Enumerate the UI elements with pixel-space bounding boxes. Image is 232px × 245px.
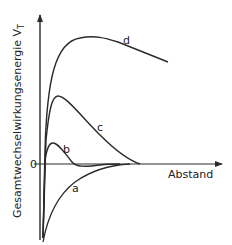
diagram-canvas: 0 a b c d Abstand Gesamtwechselwirkungse… <box>0 0 232 245</box>
x-axis-label: Abstand <box>168 168 213 181</box>
curve-label-b: b <box>63 143 70 156</box>
curve-label-a: a <box>72 182 79 195</box>
curve-label-c: c <box>97 121 103 134</box>
curve-label-d: d <box>123 34 130 47</box>
curve-c <box>43 96 140 238</box>
curve-d <box>43 37 168 238</box>
zero-label: 0 <box>30 158 37 171</box>
curve-a <box>43 164 130 242</box>
energy-diagram: 0 a b c d Abstand Gesamtwechselwirkungse… <box>0 0 232 245</box>
curve-b <box>43 143 120 238</box>
y-axis-label: Gesamtwechselwirkungsenergie VT <box>11 24 26 218</box>
y-axis-label-group: Gesamtwechselwirkungsenergie VT <box>11 24 26 218</box>
